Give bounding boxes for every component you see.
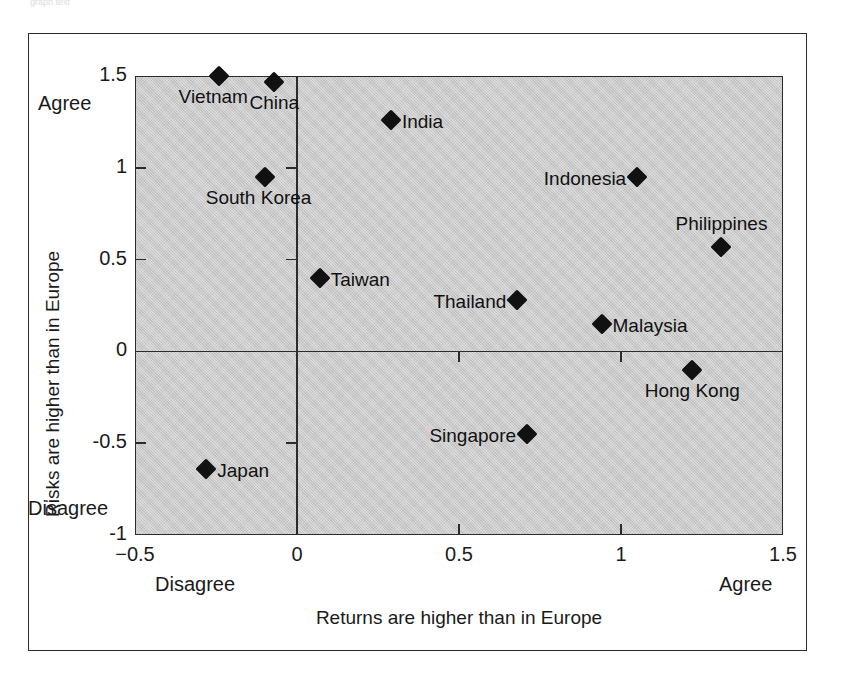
y-tick-label-0: 1.5 <box>65 63 127 86</box>
y-tick-2 <box>135 259 146 261</box>
x-axis-title: Returns are higher than in Europe <box>135 607 783 629</box>
data-point-label: Japan <box>217 460 269 482</box>
y-tick-4 <box>135 442 146 444</box>
data-point-label: Hong Kong <box>645 380 740 402</box>
data-point-label: Malaysia <box>613 315 688 337</box>
x-tick-upper-2 <box>458 351 460 362</box>
y-tick-label-4: -0.5 <box>65 430 127 453</box>
y-axis-disagree-anchor: Disagree <box>28 497 108 520</box>
data-point-label: India <box>402 111 443 133</box>
y-zero-axis-line <box>296 76 298 535</box>
x-tick-3 <box>620 524 622 535</box>
data-point-label: Indonesia <box>544 168 626 190</box>
x-tick-label-0: −0.5 <box>90 543 180 566</box>
x-tick-upper-3 <box>620 351 622 362</box>
data-point-label: Thailand <box>433 291 506 313</box>
y-tick-1 <box>135 167 146 169</box>
data-point-label: Taiwan <box>331 269 390 291</box>
data-point-label: Vietnam <box>179 86 248 108</box>
x-tick-label-4: 1.5 <box>738 543 828 566</box>
y-tick-label-5: -1 <box>65 522 127 545</box>
x-tick-label-3: 1 <box>576 543 666 566</box>
y-axis-agree-anchor: Agree <box>38 92 91 115</box>
data-point-label: South Korea <box>206 187 312 209</box>
x-tick-2 <box>458 524 460 535</box>
y-tick-label-2: 0.5 <box>65 247 127 270</box>
y-tick-label-3: 0 <box>65 338 127 361</box>
x-axis-disagree-anchor: Disagree <box>155 573 235 596</box>
y-tick-inner-1 <box>286 167 297 169</box>
x-tick-label-1: 0 <box>252 543 342 566</box>
y-tick-label-1: 1 <box>65 155 127 178</box>
y-tick-inner-2 <box>286 259 297 261</box>
y-axis-title: Risks are higher than in Europe <box>42 251 64 517</box>
x-tick-label-2: 0.5 <box>414 543 504 566</box>
data-point-label: Philippines <box>675 213 767 235</box>
x-axis-agree-anchor: Agree <box>719 573 772 596</box>
data-point-label: China <box>249 92 299 114</box>
clipped-header-text: graph text <box>30 0 140 7</box>
data-point-label: Singapore <box>429 425 516 447</box>
y-tick-inner-4 <box>286 442 297 444</box>
